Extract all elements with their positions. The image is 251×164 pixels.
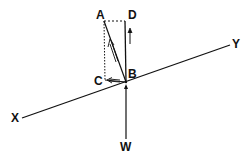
label-a: A: [96, 9, 105, 21]
label-b: B: [128, 68, 137, 80]
point-b-marker: [125, 81, 127, 83]
label-x: X: [11, 112, 19, 124]
arrow-w-icon: [124, 84, 128, 139]
force-diagram: A D B C X Y W: [0, 0, 251, 164]
line-bd: [125, 21, 126, 82]
label-y: Y: [232, 38, 240, 50]
arrow-bd-icon: [128, 28, 132, 44]
label-w: W: [120, 141, 131, 153]
line-ac-dashed: [104, 21, 105, 80]
label-c: C: [94, 75, 103, 87]
arrow-ab-icon: [108, 39, 118, 62]
label-d: D: [128, 9, 137, 21]
